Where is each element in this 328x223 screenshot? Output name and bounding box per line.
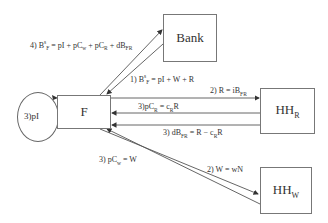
- node-hh-r-label: HH: [275, 102, 294, 117]
- edge-label-3w: 3) pCw = W: [99, 155, 137, 168]
- edge-label-4: 4) BsF = pI + pCw + pCR + dBFR: [30, 37, 132, 53]
- node-hh-r-sub: R: [294, 111, 299, 120]
- node-hh-w-label: HH: [273, 182, 292, 197]
- edge-label-1: 1) BsF = pI + W + R: [130, 71, 194, 87]
- node-bank: Bank: [163, 14, 217, 62]
- loop-label: 3)pI: [24, 111, 39, 121]
- edge-label-3pc: 3)pCR = cRR: [138, 102, 179, 115]
- node-hh-w-sub: W: [292, 190, 300, 199]
- node-bank-label: Bank: [176, 30, 203, 46]
- edge-label-3db: 3) dBFR = R − cRR: [163, 128, 223, 141]
- edge-label-2r: 2) R = iBFR: [210, 86, 247, 99]
- node-firm: F: [57, 95, 111, 129]
- node-hh-r: HHR: [260, 88, 315, 134]
- edge-label-2w: 2) W = wN: [207, 165, 243, 175]
- node-hh-w: HHW: [260, 167, 312, 214]
- node-firm-label: F: [80, 104, 87, 120]
